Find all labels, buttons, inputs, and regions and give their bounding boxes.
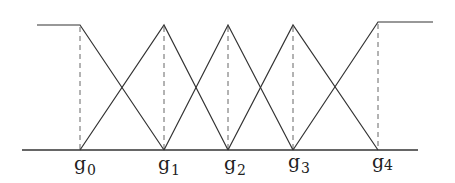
label-g4-sub: 4 xyxy=(384,157,393,173)
membership-curves xyxy=(37,22,433,150)
label-g0: g xyxy=(74,152,86,174)
label-g1: g xyxy=(158,152,170,174)
curve-4 xyxy=(293,22,433,150)
curve-3 xyxy=(228,25,378,150)
label-g3-sub: 3 xyxy=(301,160,310,176)
label-g2: g xyxy=(224,152,236,174)
membership-function-diagram: g 0 g 1 g 2 g 3 g 4 xyxy=(0,0,455,183)
label-g4: g xyxy=(372,150,384,172)
dashed-guides xyxy=(80,24,378,150)
axis-labels: g 0 g 1 g 2 g 3 g 4 xyxy=(74,150,393,178)
label-g2-sub: 2 xyxy=(237,162,246,178)
label-g1-sub: 1 xyxy=(171,162,180,178)
label-g0-sub: 0 xyxy=(87,162,96,178)
curve-0 xyxy=(37,25,164,150)
curve-1 xyxy=(80,25,228,150)
label-g3: g xyxy=(288,150,300,172)
curve-2 xyxy=(164,25,293,150)
